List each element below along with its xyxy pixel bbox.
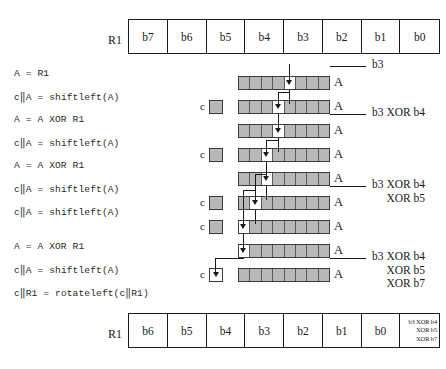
accumulator-cell-6-4 [285,197,296,209]
annotation-2: b3 XOR b4 [372,106,425,120]
wire-r2-drop [278,92,279,104]
accumulator-cell-8-4 [285,245,296,257]
arrowhead-row-2 [275,104,281,109]
instruction-line-10: c‖R1 = rotateleft(c‖R1) [14,287,149,299]
wire-r6-jog [255,174,267,175]
accumulator-row-label-8: A [334,243,343,258]
accumulator-cell-1-5 [296,77,307,89]
accumulator-cell-1-1 [250,77,261,89]
accumulator-row-label-5: A [334,171,343,186]
accumulator-cell-7-2 [262,221,273,233]
accumulator-row-9 [238,268,330,282]
accumulator-cell-5-5 [296,173,307,185]
bottom-register: b6b5b4b3b2b1b0b3 XOR b4XOR b5XOR b7 [128,313,440,348]
accumulator-cell-4-4 [285,149,296,161]
wire-r2-jog [278,92,290,93]
accumulator-row-label-2: A [334,99,343,114]
wire-box-drop [215,258,216,272]
annotation-3-line-1: b3 XOR b4 [372,178,425,192]
accumulator-row-label-1: A [334,75,343,90]
accumulator-row-2 [238,100,330,114]
wire-r6-r7 [255,210,256,224]
top-register-cell-b7: b7 [129,20,168,53]
accumulator-cell-4-0 [239,149,250,161]
accumulator-cell-9-7 [319,269,329,281]
accumulator-cell-1-3 [273,77,284,89]
accumulator-cell-3-7 [319,125,329,137]
accumulator-cell-9-4 [285,269,296,281]
accumulator-cell-4-1 [250,149,261,161]
accumulator-cell-4-6 [307,149,318,161]
accumulator-cell-8-2 [262,245,273,257]
wire-r8-left [216,258,244,259]
accumulator-cell-3-6 [307,125,318,137]
annotation-4: b3 XOR b4XOR b5XOR b7 [372,250,425,291]
accumulator-cell-6-3 [273,197,284,209]
accumulator-cell-2-6 [307,101,318,113]
annotation-3: b3 XOR b4XOR b5 [372,178,425,205]
carry-box-2 [209,148,223,162]
annotation-leader-3 [330,186,366,187]
instruction-line-1: A = R1 [14,68,49,79]
accumulator-cell-7-5 [296,221,307,233]
annotation-4-line-3: XOR b7 [372,277,425,291]
annotation-3-line-2: XOR b5 [372,192,425,206]
accumulator-row-label-3: A [334,123,343,138]
carry-box-label-5: c [200,268,205,280]
accumulator-row-label-7: A [334,219,343,234]
accumulator-cell-2-4 [285,101,296,113]
arrowhead-row-1 [286,80,292,85]
bottom-register-cell-b0: b0 [362,314,401,347]
carry-box-label-3: c [200,196,205,208]
accumulator-cell-4-5 [296,149,307,161]
instruction-line-4: c‖A = shiftleft(A) [14,137,119,149]
bottom-register-cell-b1: b1 [323,314,362,347]
wire-r6-drop [255,174,256,200]
accumulator-row-7 [238,220,330,234]
accumulator-cell-3-4 [285,125,296,137]
bottom-register-cell-b3: b3 [245,314,284,347]
accumulator-cell-3-5 [296,125,307,137]
instruction-line-2: c‖A = shiftleft(A) [14,91,119,103]
accumulator-row-1 [238,76,330,90]
annotation-leader-4 [330,258,366,259]
annotation-1: b3 [372,58,384,72]
accumulator-cell-9-1 [250,269,261,281]
annotation-leader-1 [330,66,366,67]
bottom-register-cell-result: b3 XOR b4XOR b5XOR b7 [400,314,439,347]
carry-box-1 [209,100,223,114]
accumulator-cell-9-2 [262,269,273,281]
annotation-1-line-1: b3 [372,58,384,72]
accumulator-row-label-4: A [334,147,343,162]
bottom-register-cell-b5: b5 [168,314,207,347]
bottom-register-cell-b6: b6 [129,314,168,347]
accumulator-cell-1-7 [319,77,329,89]
accumulator-row-label-6: A [334,195,343,210]
arrowhead-row-6 [252,200,258,205]
accumulator-cell-9-5 [296,269,307,281]
top-register-cell-b6: b6 [168,20,207,53]
annotation-4-line-1: b3 XOR b4 [372,250,425,264]
annotation-leader-2 [330,114,366,115]
accumulator-cell-8-7 [319,245,329,257]
accumulator-cell-8-3 [273,245,284,257]
wire-r2-r3 [278,114,279,128]
accumulator-cell-6-2 [262,197,273,209]
top-register-cell-b5: b5 [207,20,246,53]
top-register-cell-b2: b2 [323,20,362,53]
accumulator-cell-5-6 [307,173,318,185]
accumulator-cell-7-4 [285,221,296,233]
wire-r7-r8 [243,234,244,248]
top-register-label: R1 [100,33,122,48]
accumulator-cell-3-2 [262,125,273,137]
accumulator-cell-4-7 [319,149,329,161]
accumulator-cell-5-4 [285,173,296,185]
annotation-4-line-2: XOR b5 [372,264,425,278]
accumulator-cell-9-6 [307,269,318,281]
arrowhead-row-3 [275,128,281,133]
wire-b3-in [289,64,290,80]
accumulator-cell-5-0 [239,173,250,185]
top-register: b7b6b5b4b3b2b1b0 [128,19,440,54]
accumulator-cell-2-5 [296,101,307,113]
accumulator-cell-2-1 [250,101,261,113]
